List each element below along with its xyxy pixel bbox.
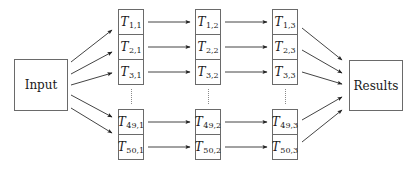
task-cell: T1,2 <box>195 9 221 35</box>
task-cell: T3,1 <box>118 59 144 85</box>
task-cell: T2,3 <box>272 34 298 60</box>
task-cell: T1,3 <box>272 9 298 35</box>
arrow-input-to-t1-1 <box>71 30 112 62</box>
task-cell: T3,2 <box>195 59 221 85</box>
ellipsis-dots <box>285 89 286 104</box>
task-cell: T50,1 <box>118 134 144 160</box>
results-box: Results <box>349 60 403 111</box>
results-label: Results <box>354 79 399 93</box>
arrow-input-to-t50-1 <box>71 108 112 133</box>
task-cell: T3,3 <box>272 59 298 85</box>
arrow-input-to-t3-1 <box>71 73 112 85</box>
task-cell: T50,3 <box>272 134 298 160</box>
task-cell: T49,2 <box>195 109 221 135</box>
pipeline-diagram: Input Results T1,1 T2,1 T3,1 T49,1 T50,1… <box>0 0 416 171</box>
arrow-input-to-t2-1 <box>71 52 112 74</box>
input-label: Input <box>25 78 58 92</box>
task-cell: T49,1 <box>118 109 144 135</box>
task-cell: T2,2 <box>195 34 221 60</box>
arrow-input-to-t49-1 <box>71 95 112 117</box>
task-cell: T1,1 <box>118 9 144 35</box>
task-cell: T49,3 <box>272 109 298 135</box>
task-cell: T50,2 <box>195 134 221 160</box>
ellipsis-dots <box>131 89 132 104</box>
task-cell: T2,1 <box>118 34 144 60</box>
input-box: Input <box>14 59 68 111</box>
ellipsis-dots <box>208 89 209 104</box>
